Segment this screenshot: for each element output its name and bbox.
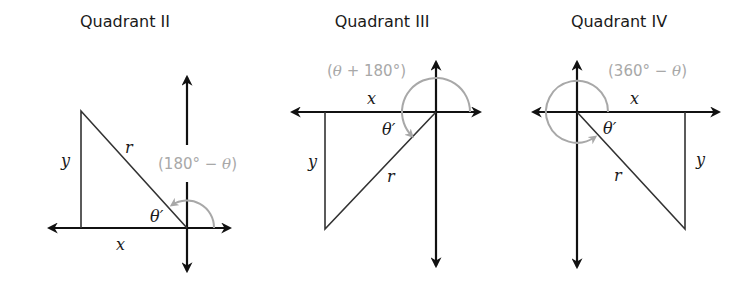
- label-r: r: [125, 138, 134, 157]
- panel-quadrant-ii: Quadrant II y r x θ′ (180° − θ): [49, 12, 237, 271]
- label-x: x: [116, 235, 125, 254]
- angle-expression: (360° − θ): [608, 62, 687, 80]
- angle-arc: [172, 200, 214, 228]
- label-theta-prime: θ′: [382, 120, 396, 139]
- panel-title: Quadrant IV: [571, 12, 667, 31]
- label-theta-prime: θ′: [603, 119, 617, 138]
- label-r: r: [614, 166, 623, 185]
- angle-expression: (180° − θ): [158, 155, 237, 173]
- label-y: y: [695, 150, 706, 169]
- panel-quadrant-iii: Quadrant III x y r θ′ (θ + 180°): [292, 12, 480, 266]
- angle-expression: (θ + 180°): [327, 62, 406, 80]
- panel-quadrant-iv: Quadrant IV x y r θ′ (360° − θ): [533, 12, 719, 267]
- label-x: x: [630, 89, 639, 108]
- reference-triangle: [577, 112, 685, 229]
- label-y: y: [60, 151, 71, 170]
- label-x: x: [367, 89, 376, 108]
- reference-angle-diagram: Quadrant II y r x θ′ (180° − θ) Quadrant…: [0, 0, 750, 283]
- label-y: y: [307, 152, 318, 171]
- panel-title: Quadrant II: [80, 12, 170, 31]
- label-r: r: [387, 167, 396, 186]
- label-theta-prime: θ′: [150, 207, 164, 226]
- panel-title: Quadrant III: [335, 12, 430, 31]
- reference-triangle: [325, 112, 436, 229]
